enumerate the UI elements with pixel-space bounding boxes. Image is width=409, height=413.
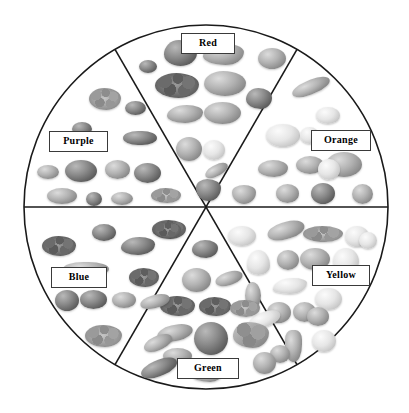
produce-tomatoes — [204, 71, 246, 96]
produce-blackberries-top — [154, 222, 181, 238]
produce-blueberries — [42, 236, 76, 256]
sector-label-red-text: Red — [199, 37, 217, 48]
produce-sweet-potato — [258, 160, 288, 177]
produce-orange-slice — [318, 159, 340, 180]
sector-label-orange: Orange — [311, 130, 371, 151]
produce-red-berries — [151, 188, 181, 203]
produce-nectarine — [352, 184, 373, 204]
produce-peaches — [266, 124, 300, 147]
produce-yellow-squash-2 — [307, 307, 329, 326]
produce-purple-grapes-blue — [80, 290, 107, 309]
produce-figs — [37, 165, 59, 179]
produce-yellow-cluster — [303, 226, 343, 242]
produce-blue-grapes-bottom — [85, 325, 122, 347]
produce-radicchio — [246, 88, 272, 109]
produce-purple-cauliflower — [89, 88, 121, 110]
produce-apricots — [316, 107, 340, 124]
sector-label-purple-text: Purple — [63, 135, 94, 146]
sector-label-orange-text: Orange — [324, 134, 358, 145]
produce-purple-potatoes — [65, 160, 97, 182]
produce-green-pepper — [182, 268, 211, 292]
produce-blackberries — [129, 268, 159, 287]
produce-purple-cabbage — [105, 160, 130, 179]
produce-watermelon — [194, 322, 228, 355]
produce-purple-eggplant-sm — [47, 188, 77, 204]
sector-label-green: Green — [177, 358, 239, 379]
produce-purple-onions — [134, 163, 161, 183]
produce-cherries — [139, 60, 157, 73]
produce-purple-carrots — [123, 131, 157, 145]
sector-label-green-text: Green — [194, 362, 222, 373]
produce-red-tomato-top — [258, 48, 286, 69]
sector-label-red: Red — [181, 33, 235, 54]
produce-avocado — [192, 240, 218, 258]
produce-grapefruit — [176, 137, 202, 161]
sector-label-purple: Purple — [49, 131, 108, 152]
sector-label-blue-text: Blue — [69, 271, 90, 282]
produce-red-apples — [204, 102, 241, 124]
sector-label-yellow: Yellow — [312, 265, 370, 286]
produce-purple-radish — [111, 192, 133, 205]
produce-purple-plum-single — [86, 192, 102, 206]
sector-label-yellow-text: Yellow — [326, 269, 356, 280]
produce-plums — [92, 224, 116, 241]
produce-grapefruit-half — [203, 140, 225, 160]
produce-green-apple — [253, 352, 276, 374]
produce-blue-berries-2 — [112, 292, 136, 308]
produce-plums-purple — [125, 101, 146, 115]
color-wheel-figure: Red Orange Yellow Green Blue Purple — [0, 0, 409, 413]
produce-green-grapes-2 — [230, 300, 260, 317]
produce-kiwi-slice — [359, 232, 377, 249]
produce-artichoke — [55, 290, 79, 311]
produce-yellow-squash-pair — [277, 250, 299, 270]
produce-orange-bell-pepper — [311, 183, 335, 204]
produce-yellow-tomato — [228, 226, 256, 246]
produce-strawberries — [155, 73, 199, 98]
produce-green-grapes — [199, 297, 231, 316]
sector-label-blue: Blue — [51, 267, 107, 288]
produce-yellow-pear — [247, 250, 270, 275]
produce-pumpkin — [276, 184, 299, 203]
produce-yellow-apple-2 — [312, 330, 336, 352]
